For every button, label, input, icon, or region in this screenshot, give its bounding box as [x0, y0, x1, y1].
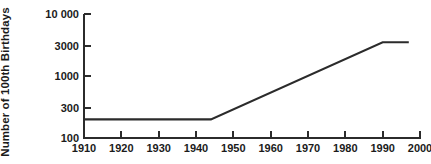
x-axis-tick-label: 1910: [72, 142, 96, 154]
x-axis-tick-label: 1940: [184, 142, 208, 154]
plot-area: 1003001000300010 000 1910192019301940195…: [84, 14, 420, 138]
x-axis-tick-label: 1930: [146, 142, 170, 154]
x-axis-tick-label: 1980: [333, 142, 357, 154]
x-axis-tick-label: 1970: [296, 142, 320, 154]
x-axis-tick-label: 1960: [258, 142, 282, 154]
y-axis-label: Number of 100th Birthdays: [0, 0, 22, 164]
chart-figure: Number of 100th Birthdays 10030010003000…: [0, 0, 431, 164]
y-axis-tick-label: 3000: [55, 40, 79, 52]
y-axis-tick-label: 10 000: [45, 8, 79, 20]
y-axis-tick-label: 1000: [55, 70, 79, 82]
y-axis-tick-label: 300: [61, 102, 79, 114]
x-axis-tick-label: 1950: [221, 142, 245, 154]
data-series-layer: [84, 14, 420, 138]
x-axis-tick-label: 1920: [109, 142, 133, 154]
data-line-number-of-100th-birthdays: [84, 42, 409, 119]
x-axis-tick-label: 2000: [408, 142, 431, 154]
x-axis-tick-label: 1990: [370, 142, 394, 154]
